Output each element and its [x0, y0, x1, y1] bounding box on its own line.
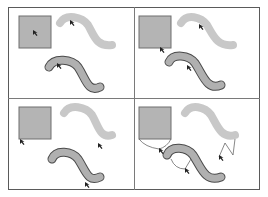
- cursor-icon: [219, 155, 224, 161]
- panel-top-right: [135, 7, 261, 98]
- connector-line: [139, 139, 171, 149]
- cursor-icon: [20, 139, 25, 145]
- light-s-curve: [64, 107, 112, 136]
- cursor-icon: [185, 168, 190, 174]
- connector-line: [171, 159, 191, 169]
- cursor-icon: [85, 182, 90, 188]
- light-s-curve: [181, 17, 233, 45]
- panel-bottom-right: [135, 99, 261, 190]
- cursor-icon: [159, 148, 164, 154]
- panel-top-left: [8, 7, 134, 98]
- panel-bottom-left: [8, 99, 134, 190]
- square-shape: [139, 107, 171, 139]
- light-s-curve: [60, 17, 112, 45]
- connector-line: [219, 139, 235, 157]
- square-shape: [19, 107, 51, 139]
- cursor-icon: [187, 65, 192, 71]
- light-s-curve: [185, 107, 235, 136]
- square-shape: [139, 16, 171, 48]
- cursor-icon: [98, 143, 103, 149]
